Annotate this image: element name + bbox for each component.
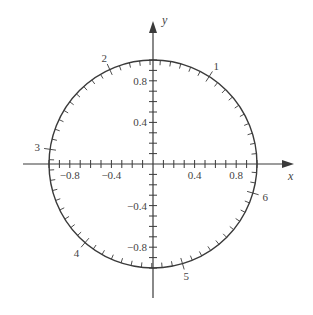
arc-minor-tick xyxy=(140,61,141,66)
arc-minor-tick xyxy=(179,64,180,69)
arc-minor-tick xyxy=(248,133,253,134)
arc-minor-tick xyxy=(65,216,69,219)
arc-minor-tick xyxy=(250,182,255,183)
arc-minor-tick xyxy=(76,94,80,97)
arc-label: 4 xyxy=(74,247,80,259)
arc-minor-tick xyxy=(222,89,225,93)
arc-minor-tick xyxy=(70,102,74,105)
arc-minor-tick xyxy=(56,199,61,201)
y-tick-label: 0.4 xyxy=(133,116,147,128)
arc-minor-tick xyxy=(141,262,142,267)
y-axis-label: y xyxy=(161,13,168,27)
arc-minor-tick xyxy=(199,251,201,255)
diagram-canvas: x y −0.8−0.40.40.80.80.4−0.4−0.8123456 xyxy=(0,0,313,315)
y-tick-label: −0.8 xyxy=(127,241,147,253)
arc-minor-tick xyxy=(129,63,130,68)
y-tick-label: 0.8 xyxy=(133,75,147,87)
arc-label: 2 xyxy=(102,52,108,64)
x-axis-label: x xyxy=(287,169,294,183)
arc-minor-tick xyxy=(119,66,121,71)
arc-label: 3 xyxy=(34,141,40,153)
arc-minor-tick xyxy=(52,139,57,140)
arc-minor-tick xyxy=(240,114,244,116)
x-tick-label: 0.8 xyxy=(229,169,243,181)
arc-minor-tick xyxy=(84,86,87,90)
arc-minor-tick xyxy=(71,225,75,228)
arc-minor-tick xyxy=(190,256,192,261)
arc-minor-tick xyxy=(64,110,68,113)
axes xyxy=(23,21,294,298)
arc-label: 5 xyxy=(183,270,189,282)
arc-minor-tick xyxy=(245,201,250,203)
arc-minor-tick xyxy=(93,245,96,249)
x-tick-label: 0.4 xyxy=(188,169,202,181)
arc-minor-tick xyxy=(55,129,60,131)
arc-minor-tick xyxy=(111,255,113,260)
arc-label: 1 xyxy=(213,60,219,72)
arc-minor-tick xyxy=(189,67,191,72)
arc-minor-tick xyxy=(170,62,171,67)
arc-minor-tick xyxy=(230,226,234,229)
x-tick-label: −0.8 xyxy=(60,169,80,181)
arc-minor-tick xyxy=(92,80,95,84)
unit-circle-diagram: x y −0.8−0.40.40.80.80.4−0.4−0.8123456 xyxy=(0,0,313,315)
x-tick-label: −0.4 xyxy=(101,169,121,181)
arc-label: 6 xyxy=(263,191,269,203)
arc-minor-tick xyxy=(223,234,227,238)
arc-major-tick xyxy=(206,71,212,81)
arc-minor-tick xyxy=(215,83,218,87)
arc-minor-tick xyxy=(100,74,103,78)
arc-minor-tick xyxy=(198,71,200,75)
arc-minor-tick xyxy=(244,124,249,126)
arc-minor-tick xyxy=(60,208,64,210)
arc-minor-tick xyxy=(236,219,240,222)
arc-minor-tick xyxy=(102,250,104,254)
arc-minor-tick xyxy=(59,120,64,122)
arc-minor-tick xyxy=(131,261,132,266)
x-axis-arrow-icon xyxy=(282,160,294,168)
y-axis-arrow-icon xyxy=(149,21,157,33)
arc-minor-tick xyxy=(241,210,245,212)
arc-minor-tick xyxy=(250,143,255,144)
arc-minor-tick xyxy=(171,261,172,266)
arc-minor-tick xyxy=(208,246,211,250)
y-tick-label: −0.4 xyxy=(127,200,147,212)
arc-minor-tick xyxy=(229,97,233,100)
arc-minor-tick xyxy=(121,258,123,263)
arc-minor-tick xyxy=(235,105,239,108)
arc-minor-tick xyxy=(52,189,57,190)
arc-minor-tick xyxy=(50,180,55,181)
arc-minor-tick xyxy=(216,241,219,245)
arc-major-tick xyxy=(107,64,112,75)
arc-minor-tick xyxy=(78,232,82,235)
